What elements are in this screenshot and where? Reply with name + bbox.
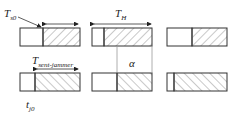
label-alpha: α bbox=[129, 58, 135, 69]
top-row bbox=[20, 28, 227, 46]
label-t-s0: Ts0 bbox=[4, 8, 16, 22]
label-t-j0: tj0 bbox=[26, 99, 35, 113]
block-top-1 bbox=[20, 28, 80, 46]
block-bottom-1 bbox=[20, 73, 80, 91]
bottom-row bbox=[20, 73, 227, 91]
block-top-3 bbox=[167, 28, 227, 46]
label-t-h: TH bbox=[115, 8, 126, 22]
block-bottom-2 bbox=[92, 73, 152, 91]
block-bottom-3 bbox=[167, 73, 227, 91]
ts0-pointer-arrow bbox=[18, 17, 41, 27]
block-top-2 bbox=[92, 28, 152, 46]
label-t-sent-jammer: Tsent-jammer bbox=[32, 55, 73, 69]
